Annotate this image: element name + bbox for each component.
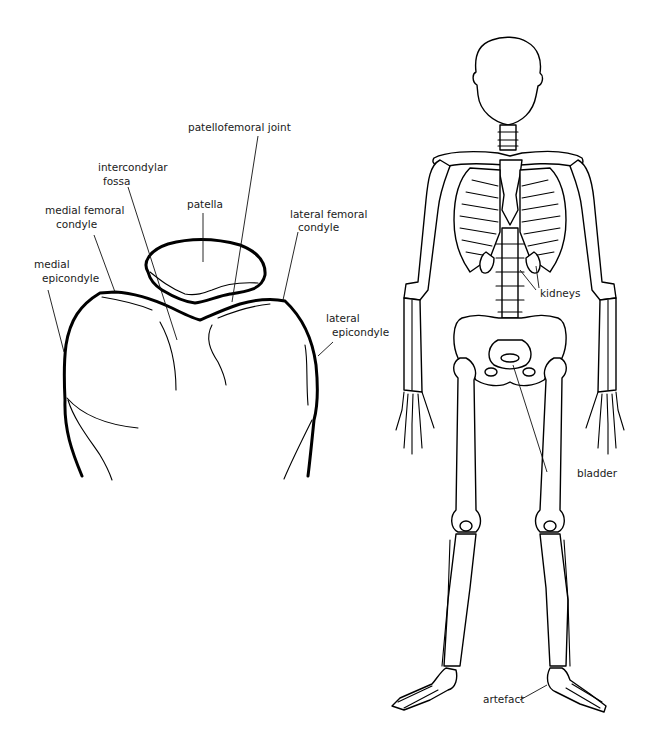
rib-cage (454, 168, 500, 272)
label-intercondylar-fossa: intercondylar fossa (98, 161, 171, 187)
sternum (500, 160, 522, 225)
label-patella: patella (187, 198, 223, 210)
right-tibia (540, 534, 568, 666)
patella-outline (146, 240, 265, 303)
right-femur (536, 358, 567, 532)
knee-labels: patellofemoral joint intercondylar fossa… (34, 121, 389, 338)
right-hand (586, 392, 624, 454)
label-medial-epicondyle: medial epicondyle (34, 258, 99, 284)
label-artefact: artefact (483, 693, 524, 705)
bladder (501, 354, 519, 362)
right-foot (548, 668, 606, 712)
left-hand (396, 392, 434, 454)
label-lateral-epicondyle: lateral epicondyle (326, 312, 389, 338)
skull (473, 37, 542, 125)
label-lateral-femoral-condyle: lateral femoral condyle (290, 208, 371, 233)
spine (502, 228, 518, 318)
anatomy-diagram: patellofemoral joint intercondylar fossa… (0, 0, 666, 754)
knee-leader-lines (48, 136, 333, 356)
label-patellofemoral-joint: patellofemoral joint (188, 121, 291, 133)
right-humerus (570, 160, 616, 300)
left-femur (452, 358, 481, 532)
label-kidneys: kidneys (540, 287, 580, 299)
label-bladder: bladder (577, 467, 618, 479)
femur-outline (64, 292, 317, 476)
skeleton-drawing (392, 37, 624, 712)
left-tibia (444, 534, 476, 666)
knee-drawing (64, 240, 317, 480)
left-humerus (404, 160, 450, 300)
label-medial-femoral-condyle: medial femoral condyle (45, 204, 128, 230)
